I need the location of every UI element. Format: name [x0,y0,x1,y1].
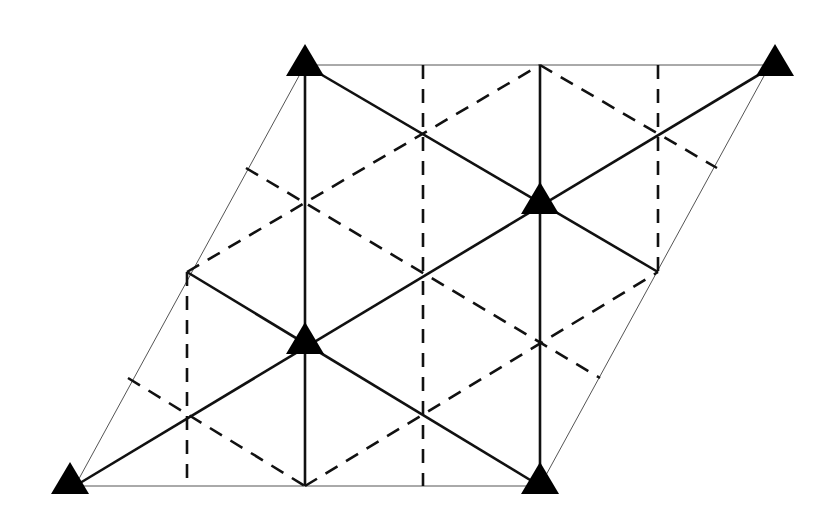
solid-lines [75,65,775,486]
triangle-marker-icon [51,462,89,494]
solid-line [75,65,775,486]
triangle-marker-icon [286,44,324,76]
triangle-marker-icon [756,44,794,76]
lattice-diagram [0,0,838,528]
solid-line [187,272,540,486]
dashed-line [187,65,540,272]
triangle-marker-icon [286,322,324,354]
dashed-line [128,378,305,486]
diagram-canvas [0,0,838,528]
dashed-line [305,272,658,486]
